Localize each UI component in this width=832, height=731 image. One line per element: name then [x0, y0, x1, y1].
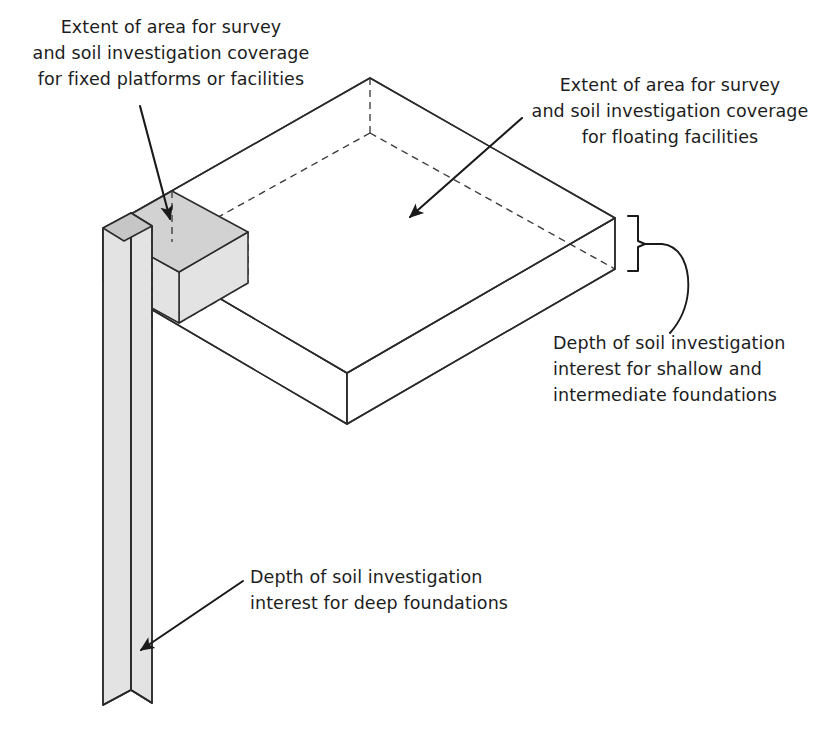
- label-shallow-intermediate-depth: Depth of soil investigation interest for…: [553, 330, 829, 408]
- label-floating-facilities: Extent of area for survey and soil inves…: [512, 72, 828, 150]
- column-left-face: [103, 213, 131, 705]
- brace-slab-thickness: [628, 216, 645, 271]
- label-fixed-platforms: Extent of area for survey and soil inves…: [6, 14, 336, 92]
- column-right-face: [131, 213, 152, 703]
- arrow-deep-foundations: [141, 581, 243, 650]
- brace-connector-curve: [645, 244, 688, 333]
- label-deep-foundation-depth: Depth of soil investigation interest for…: [250, 564, 550, 616]
- diagram-root: Extent of area for survey and soil inves…: [0, 0, 832, 731]
